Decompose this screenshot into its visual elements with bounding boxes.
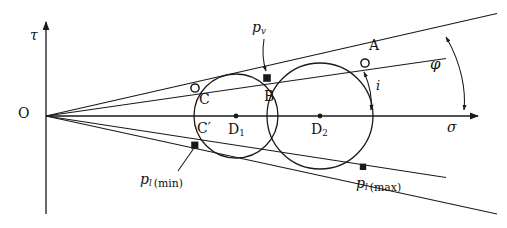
point-label-d2-base: D	[311, 121, 322, 137]
point-label-d1-sub: 1	[239, 128, 245, 138]
point-label-c: C	[199, 92, 210, 106]
ray-inner-lower	[46, 116, 446, 178]
ray-outer-lower	[46, 116, 497, 214]
marker-point-c-prime	[191, 142, 198, 149]
annotation-pl-max-paren: (max)	[368, 181, 402, 194]
point-label-c-prime: C′	[197, 121, 211, 135]
marker-point-b	[263, 74, 271, 82]
annotation-pl-max-base: p	[356, 175, 365, 191]
annotation-pv-base: p	[252, 19, 261, 35]
angle-arc-i	[364, 72, 371, 110]
axis-label-tau: τ	[30, 28, 38, 42]
annotation-pv-sub: v	[261, 26, 266, 36]
point-label-a: A	[369, 38, 379, 52]
axis-label-sigma: σ	[447, 120, 457, 134]
point-label-b: B	[264, 89, 274, 103]
point-label-d2: D2	[311, 122, 328, 138]
point-label-d1: D1	[228, 122, 245, 138]
marker-pl-max-tangency	[360, 164, 366, 170]
angle-label-i: i	[376, 79, 380, 92]
mohr-circle-figure: τ σ O A B C C′ D1 D2 pv pl(min) pl(max) …	[0, 0, 507, 228]
leader-pl-min	[178, 148, 194, 171]
ray-inner-upper	[46, 59, 446, 117]
center-dot-d2	[318, 114, 323, 119]
annotation-pl-min-paren: (min)	[152, 177, 183, 190]
annotation-pl-min-base: p	[140, 171, 149, 187]
point-label-d1-base: D	[228, 121, 239, 137]
angle-label-phi: φ	[430, 57, 441, 72]
center-dot-d1	[234, 114, 239, 119]
marker-point-c	[191, 84, 199, 92]
point-label-d2-sub: 2	[322, 128, 328, 138]
origin-label: O	[18, 106, 29, 120]
angle-arc-phi	[446, 37, 464, 110]
marker-point-a	[361, 59, 369, 67]
annotation-pv: pv	[252, 20, 266, 36]
annotation-pl-max: pl(max)	[356, 176, 401, 194]
annotation-pl-min: pl(min)	[140, 172, 183, 190]
